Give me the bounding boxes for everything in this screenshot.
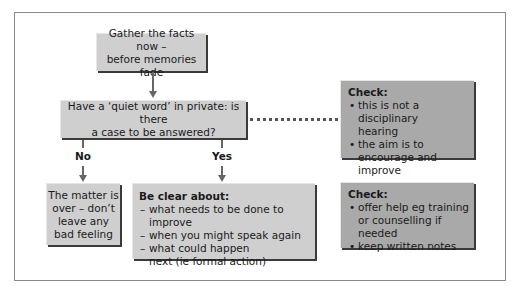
arrow-down-icon	[218, 175, 226, 182]
connector-yes-top	[221, 140, 223, 148]
yes-outcome-box: Be clear about: what needs to be done to…	[132, 183, 315, 259]
check-box-1-list: this is not a disciplinary hearing the a…	[348, 99, 470, 177]
start-box-line1: Gather the facts now –	[97, 27, 206, 53]
yes-box-item: what needs to be done to improve	[149, 203, 311, 229]
dotted-connector	[250, 118, 338, 121]
connector-no-top	[82, 140, 84, 148]
decision-box: Have a ‘quiet word’ in private: is there…	[60, 100, 246, 138]
arrow-down-icon	[149, 91, 157, 98]
yes-box-item: when you might speak again	[149, 229, 311, 242]
decision-box-line2: a case to be answered?	[61, 126, 246, 139]
yes-box-list: what needs to be done to improve when yo…	[139, 203, 311, 268]
check-item: keep written notes	[358, 240, 470, 253]
no-box-line: leave any	[47, 215, 120, 228]
check-item: offer help eg training or counselling if…	[358, 201, 476, 240]
no-box-line: The matter is	[47, 189, 120, 202]
no-label: No	[75, 150, 91, 162]
no-box-line: over – don’t	[47, 202, 120, 215]
check-box-2: Check: offer help eg training or counsel…	[340, 182, 474, 248]
check-box-2-list: offer help eg training or counselling if…	[348, 201, 470, 253]
connector-start-decision	[152, 72, 154, 92]
decision-box-line1: Have a ‘quiet word’ in private: is there	[61, 100, 246, 126]
no-outcome-box: The matter is over – don’t leave any bad…	[46, 183, 120, 245]
no-box-line: bad feeling	[47, 228, 120, 241]
check-item: this is not a disciplinary hearing	[358, 99, 458, 138]
check-box-1: Check: this is not a disciplinary hearin…	[340, 80, 474, 158]
yes-box-item: what could happen next (ie formal action…	[149, 242, 269, 268]
yes-label: Yes	[212, 150, 232, 162]
check-box-1-title: Check:	[348, 86, 470, 99]
start-box: Gather the facts now – before memories f…	[96, 33, 206, 71]
yes-box-title: Be clear about:	[139, 190, 311, 203]
check-item: the aim is to encourage and improve	[358, 138, 478, 177]
arrow-down-icon	[79, 175, 87, 182]
check-box-2-title: Check:	[348, 188, 470, 201]
